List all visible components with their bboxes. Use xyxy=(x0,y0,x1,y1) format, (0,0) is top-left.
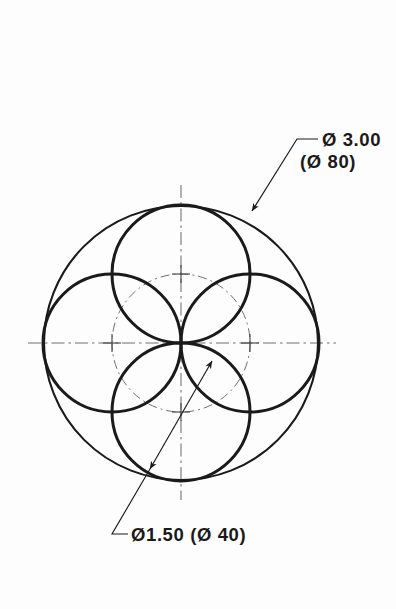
technical-drawing-svg: Ø 3.00 (Ø 80) Ø1.50 (Ø 40) xyxy=(0,0,396,609)
small-diameter-label: Ø1.50 (Ø 40) xyxy=(131,524,246,545)
drawing-canvas-root: Ø 3.00 (Ø 80) Ø1.50 (Ø 40) xyxy=(0,0,396,609)
outer-diameter-label-line2: (Ø 80) xyxy=(300,151,356,172)
drawing-background xyxy=(0,0,396,609)
outer-diameter-label-line1: Ø 3.00 xyxy=(322,129,381,150)
